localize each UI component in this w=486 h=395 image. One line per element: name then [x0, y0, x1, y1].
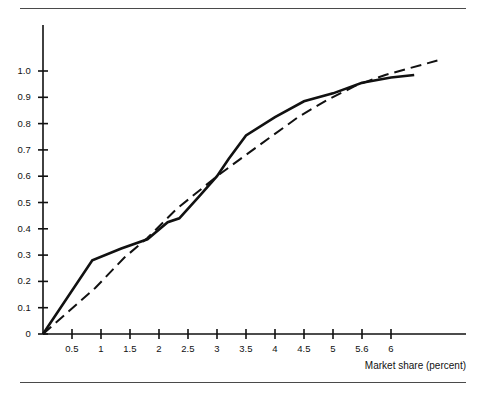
y-axis-tick-label: 0.8 — [5, 118, 31, 129]
x-axis-tick-label: 1 — [86, 343, 116, 354]
x-axis-tick-label: 0.5 — [57, 343, 87, 354]
data-series — [43, 60, 437, 334]
x-axis-tick-label: 4 — [260, 343, 290, 354]
x-axis-tick-label: 3.5 — [231, 343, 261, 354]
x-axis-tick-label: 1.5 — [115, 343, 145, 354]
axes — [43, 25, 466, 334]
x-axis-tick-label: 4.5 — [289, 343, 319, 354]
series-line-observed-curve — [43, 75, 414, 334]
y-axis-tick-label: 0.5 — [5, 197, 31, 208]
y-axis-tick-label: 0.7 — [5, 144, 31, 155]
x-axis-tick-label: 3 — [202, 343, 232, 354]
x-axis-tick-label: 2 — [144, 343, 174, 354]
y-axis-tick-label: 0.4 — [5, 223, 31, 234]
x-axis-title: Market share (percent) — [365, 360, 466, 371]
y-axis-tick-label: 0.2 — [5, 275, 31, 286]
plot-area — [0, 0, 486, 395]
y-axis-tick-label: 0.3 — [5, 249, 31, 260]
x-axis-tick-label: 2.5 — [173, 343, 203, 354]
y-axis-tick-label: 0.9 — [5, 91, 31, 102]
series-line-reference-curve — [43, 60, 437, 334]
y-axis-tick-label: 0.1 — [5, 302, 31, 313]
y-axis-tick-label: 0.6 — [5, 170, 31, 181]
chart-figure: 00.10.20.30.40.50.60.70.80.91.0 0.511.52… — [0, 0, 486, 395]
y-axis-tick-label: 1.0 — [5, 65, 31, 76]
x-axis-tick-label: 5.6 — [347, 343, 377, 354]
x-axis-tick-label: 5 — [318, 343, 348, 354]
y-axis-tick-label: 0 — [5, 328, 31, 339]
x-axis-tick-label: 6 — [376, 343, 406, 354]
